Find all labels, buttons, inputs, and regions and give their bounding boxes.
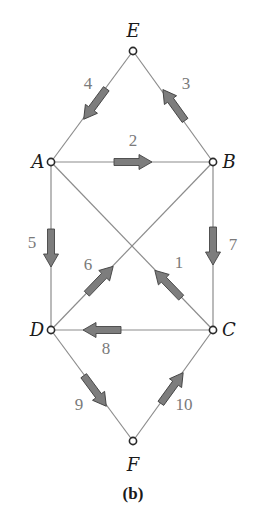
node-A — [47, 158, 54, 165]
arrow-icon-edge-8 — [83, 323, 121, 338]
node-E — [129, 47, 136, 54]
edge-label-5: 5 — [28, 233, 37, 252]
arrow-icon-edge-7 — [206, 227, 221, 265]
edge-labels: 1 2 3 4 5 6 7 8 9 10 — [28, 74, 238, 414]
node-label-C: C — [222, 319, 236, 340]
edge-label-10: 10 — [176, 395, 193, 414]
figure-caption: (b) — [123, 484, 144, 503]
edge-label-7: 7 — [229, 235, 238, 254]
arrow-icon-edge-2 — [114, 155, 152, 170]
edges — [51, 51, 213, 441]
edge-label-4: 4 — [84, 74, 93, 93]
node-B — [209, 158, 216, 165]
node-label-E: E — [125, 20, 139, 41]
node-label-F: F — [126, 454, 141, 475]
edge-label-3: 3 — [182, 74, 191, 93]
node-label-A: A — [30, 151, 45, 172]
node-label-B: B — [221, 151, 235, 172]
arrow-icon-edge-5 — [44, 229, 59, 267]
node-label-D: D — [29, 319, 45, 340]
directed-graph-diagram: E A B D C F 1 2 3 4 5 6 7 8 9 10 (b) — [0, 0, 256, 524]
edge-label-2: 2 — [129, 131, 138, 150]
edge-label-1: 1 — [175, 253, 184, 272]
node-C — [209, 326, 216, 333]
edge-label-6: 6 — [84, 255, 93, 274]
edge-label-9: 9 — [75, 395, 84, 414]
edge-label-8: 8 — [102, 339, 111, 358]
node-F — [129, 437, 136, 444]
node-D — [47, 326, 54, 333]
node-labels: E A B D C F — [29, 20, 236, 475]
